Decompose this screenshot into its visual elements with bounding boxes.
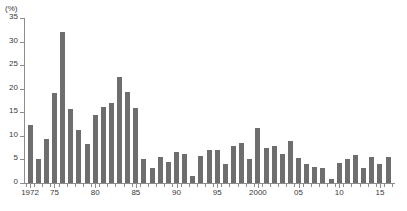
x-axis-major-tick-mark: [95, 184, 96, 188]
y-axis-tick-label: 20: [9, 83, 18, 93]
x-axis-tick-label: 75: [50, 188, 59, 198]
y-axis-tick-label: 35: [9, 12, 18, 22]
bar: [60, 32, 65, 183]
y-axis-tick-mark: [20, 89, 24, 90]
x-axis-tick-mark: [327, 184, 328, 187]
bar: [386, 157, 391, 183]
x-axis-tick-mark: [319, 184, 320, 187]
y-axis-tick-label: 5: [14, 153, 18, 163]
bar: [329, 179, 334, 183]
x-axis-tick-mark: [75, 184, 76, 187]
bar: [141, 159, 146, 183]
bar: [288, 141, 293, 183]
y-axis-tick-mark: [20, 18, 24, 19]
x-axis-major-tick-mark: [299, 184, 300, 188]
bar: [247, 159, 252, 184]
x-axis-tick-mark: [83, 184, 84, 187]
x-axis-tick-mark: [368, 184, 369, 187]
x-axis-major-tick-mark: [177, 184, 178, 188]
bar: [337, 163, 342, 183]
x-axis-tick-mark: [59, 184, 60, 187]
bar: [198, 156, 203, 183]
bar: [231, 146, 236, 183]
bar: [369, 157, 374, 183]
x-axis-major-tick-mark: [30, 184, 31, 188]
x-axis-tick-mark: [278, 184, 279, 187]
x-axis-tick-mark: [246, 184, 247, 187]
x-axis-major-tick-mark: [380, 184, 381, 188]
bar: [44, 139, 49, 183]
y-axis-tick-label: 15: [9, 106, 18, 116]
bar: [353, 155, 358, 183]
x-axis-tick-mark: [156, 184, 157, 187]
bar: [207, 150, 212, 183]
bar: [174, 152, 179, 183]
x-axis-major-tick-mark: [54, 184, 55, 188]
x-axis-tick-mark: [181, 184, 182, 187]
x-axis-tick-mark: [140, 184, 141, 187]
y-axis-tick-mark: [20, 112, 24, 113]
bar: [182, 154, 187, 183]
y-axis-tick-label: 30: [9, 36, 18, 46]
x-axis-tick-label: 10: [335, 188, 344, 198]
y-axis-tick-label: 25: [9, 59, 18, 69]
bar: [150, 168, 155, 183]
y-axis-tick-mark: [20, 65, 24, 66]
x-axis-tick-mark: [26, 184, 27, 187]
bar: [93, 115, 98, 183]
bar: [239, 143, 244, 183]
x-axis-tick-mark: [335, 184, 336, 187]
bar: [345, 159, 350, 183]
x-axis-tick-mark: [34, 184, 35, 187]
x-axis-tick-label: 85: [131, 188, 140, 198]
bar: [85, 144, 90, 183]
x-axis-tick-mark: [107, 184, 108, 187]
x-axis-tick-mark: [351, 184, 352, 187]
x-axis-tick-label: 1972: [21, 188, 39, 198]
bar: [280, 154, 285, 183]
x-axis-tick-mark: [384, 184, 385, 187]
bar: [158, 157, 163, 183]
x-axis-tick-mark: [124, 184, 125, 187]
y-axis-tick-mark: [20, 136, 24, 137]
bar: [255, 128, 260, 183]
bar: [125, 92, 130, 183]
x-axis-tick-label: 80: [91, 188, 100, 198]
bar: [76, 130, 81, 183]
x-axis-tick-label: 95: [213, 188, 222, 198]
bar: [312, 167, 317, 184]
x-axis-major-tick-mark: [217, 184, 218, 188]
x-axis-tick-mark: [99, 184, 100, 187]
y-axis-tick-label: 10: [9, 130, 18, 140]
bar: [320, 168, 325, 183]
x-axis-tick-mark: [221, 184, 222, 187]
x-axis-tick-label: 90: [172, 188, 181, 198]
x-axis-tick-mark: [205, 184, 206, 187]
bar: [133, 108, 138, 183]
x-axis-tick-mark: [311, 184, 312, 187]
y-axis-tick-mark: [20, 159, 24, 160]
x-axis-tick-mark: [197, 184, 198, 187]
x-axis-tick-mark: [148, 184, 149, 187]
x-axis-tick-mark: [343, 184, 344, 187]
x-axis-tick-mark: [189, 184, 190, 187]
x-axis-tick-mark: [115, 184, 116, 187]
bar: [28, 125, 33, 183]
bar: [304, 164, 309, 183]
x-axis-tick-mark: [238, 184, 239, 187]
x-axis-tick-mark: [91, 184, 92, 187]
y-axis-tick-label: 0: [14, 177, 18, 187]
x-axis-major-tick-mark: [136, 184, 137, 188]
x-axis-tick-mark: [254, 184, 255, 187]
x-axis-tick-mark: [67, 184, 68, 187]
bar: [117, 77, 122, 183]
x-axis-major-tick-mark: [339, 184, 340, 188]
plot-area: 05101520253035: [24, 18, 395, 183]
bar: [52, 93, 57, 183]
x-axis-tick-mark: [164, 184, 165, 187]
bar: [109, 103, 114, 183]
x-axis-tick-mark: [270, 184, 271, 187]
x-axis-tick-mark: [172, 184, 173, 187]
x-axis-tick-mark: [392, 184, 393, 187]
x-axis-tick-mark: [286, 184, 287, 187]
